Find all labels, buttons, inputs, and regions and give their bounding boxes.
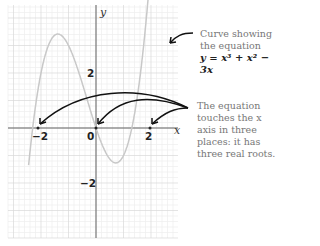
x-tick-2: 2: [145, 130, 152, 142]
x-axis-label: x: [174, 124, 180, 137]
note-line: three real roots.: [197, 148, 275, 160]
y-axis-label: y: [100, 6, 106, 19]
equation-text: y = x³ + x² − 3x: [200, 52, 279, 76]
y-tick-neg2: −2: [80, 177, 96, 189]
x-tick-neg2: −2: [32, 130, 48, 142]
note-line: the equation: [200, 40, 279, 52]
note-line: The equation: [197, 100, 275, 112]
y-tick-2: 2: [87, 67, 94, 79]
curve-annotation: Curve showing the equation y = x³ + x² −…: [200, 28, 279, 76]
roots-annotation: The equation touches the x axis in three…: [197, 100, 275, 160]
x-tick-0: 0: [87, 130, 94, 142]
note-line: Curve showing: [200, 28, 279, 40]
root-point: [95, 127, 98, 130]
note-line: axis in three: [197, 124, 275, 136]
note-line: places: it has: [197, 136, 275, 148]
note-line: touches the x: [197, 112, 275, 124]
